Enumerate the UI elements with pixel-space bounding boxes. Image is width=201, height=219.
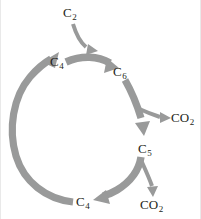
label-c2-input: C2 bbox=[63, 6, 77, 19]
carbon-cycle-diagram: C2 C4 C6 CO2 C5 CO2 C4 bbox=[0, 0, 201, 219]
arrow-c4-to-c4-return bbox=[12, 52, 73, 202]
arrow-c4-to-c6 bbox=[66, 57, 119, 73]
arrow-c2-to-cycle bbox=[73, 24, 98, 55]
arrow-c5-to-c4 bbox=[93, 157, 141, 204]
arrow-c5-to-co2 bbox=[141, 160, 158, 197]
label-c5: C5 bbox=[138, 142, 152, 155]
label-c6: C6 bbox=[113, 65, 127, 78]
label-c4-top: C4 bbox=[50, 55, 64, 68]
label-c4-bottom: C4 bbox=[76, 195, 90, 208]
label-co2-upper: CO2 bbox=[171, 111, 194, 124]
label-co2-lower: CO2 bbox=[140, 198, 163, 211]
